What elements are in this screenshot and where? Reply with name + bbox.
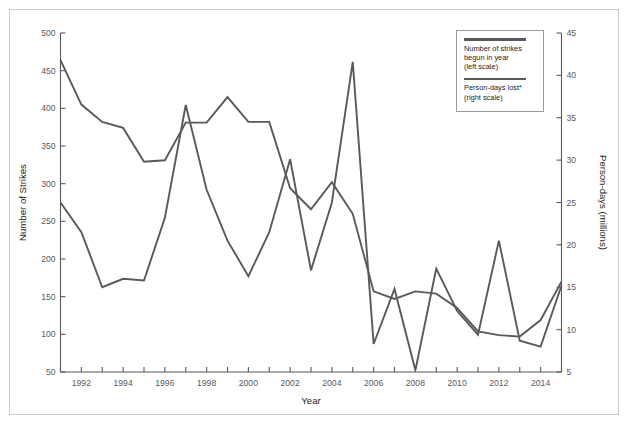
x-axis-tick-label: 1994	[114, 378, 133, 388]
x-axis-tick-label: 1998	[197, 378, 216, 388]
y2-axis-title: Person-days (millions)	[598, 155, 609, 250]
y-axis-tick-label: 450	[41, 66, 56, 76]
y-axis-tick-label: 300	[41, 179, 56, 189]
x-axis-tick-label: 2014	[531, 378, 550, 388]
x-axis-tick-label: 2000	[239, 378, 258, 388]
y-axis-tick-label: 400	[41, 103, 56, 113]
y2-axis-tick-label: 25	[567, 198, 577, 208]
y-axis-tick-label: 150	[41, 292, 56, 302]
y2-axis-tick-label: 40	[567, 70, 577, 80]
y2-axis-tick-label: 20	[567, 240, 577, 250]
legend-label-person-days: Person-days lost* (right scale)	[464, 83, 537, 102]
x-axis-tick-label: 2012	[489, 378, 508, 388]
legend-label-strikes: Number of strikes begun in year (left sc…	[464, 44, 537, 72]
y-axis-title: Number of Strikes	[17, 164, 28, 241]
y2-axis-tick-label: 5	[567, 367, 572, 377]
figure-container: 5010015020025030035040045050051015202530…	[0, 0, 629, 426]
x-axis-tick-label: 2006	[364, 378, 383, 388]
x-axis-tick-label: 2004	[322, 378, 341, 388]
y-axis-tick-label: 350	[41, 141, 56, 151]
legend-swatch-strikes	[464, 38, 526, 41]
legend-swatch-person-days	[464, 78, 526, 81]
x-axis-tick-label: 2010	[448, 378, 467, 388]
chart-legend: Number of strikes begun in year (left sc…	[456, 30, 544, 112]
x-axis-title: Year	[301, 395, 321, 406]
y-axis-tick-label: 250	[41, 216, 56, 226]
y2-axis-tick-label: 45	[567, 28, 577, 38]
y-axis-tick-label: 500	[41, 28, 56, 38]
x-axis-tick-label: 2008	[406, 378, 425, 388]
legend-item-strikes: Number of strikes begun in year (left sc…	[464, 38, 537, 72]
y2-axis-tick-label: 30	[567, 155, 577, 165]
y2-axis-tick-label: 10	[567, 325, 577, 335]
x-axis-tick-label: 1996	[155, 378, 174, 388]
x-axis-tick-label: 2002	[281, 378, 300, 388]
y-axis-tick-label: 50	[46, 367, 56, 377]
x-axis-tick-label: 1992	[72, 378, 91, 388]
legend-item-person-days: Person-days lost* (right scale)	[464, 78, 537, 102]
y2-axis-tick-label: 35	[567, 113, 577, 123]
y-axis-tick-label: 100	[41, 329, 56, 339]
y2-axis-tick-label: 15	[567, 282, 577, 292]
y-axis-tick-label: 200	[41, 254, 56, 264]
